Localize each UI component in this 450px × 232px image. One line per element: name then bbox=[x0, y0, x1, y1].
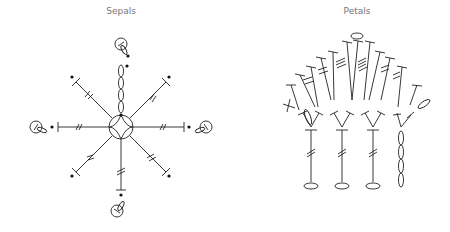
sepals-diagram bbox=[0, 0, 450, 232]
magic-ring bbox=[109, 113, 133, 139]
spokes bbox=[58, 78, 184, 190]
chain-stitches bbox=[119, 65, 124, 113]
slip-stitch-dots bbox=[50, 54, 190, 196]
